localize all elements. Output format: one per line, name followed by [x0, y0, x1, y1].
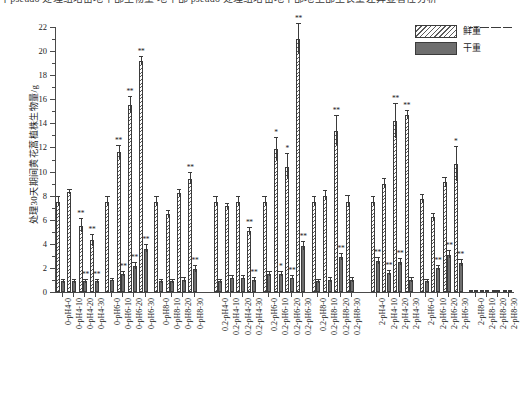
error-bar-cap — [166, 210, 170, 211]
bar-group — [236, 27, 247, 292]
x-tick — [486, 292, 487, 297]
bar-fresh-weight — [247, 231, 251, 292]
x-tick — [122, 292, 123, 297]
x-tick — [351, 292, 352, 297]
error-bar — [395, 104, 396, 138]
bar-group — [177, 27, 188, 292]
significance-marker: ** — [191, 257, 198, 264]
significance-marker: ** — [246, 219, 253, 226]
bar-fresh-weight — [296, 39, 300, 292]
bar-fresh-weight — [117, 152, 121, 292]
x-tick-label: 2-pH8-20 — [500, 298, 508, 329]
x-tick — [62, 292, 63, 297]
x-tick-label: 0-pH4-20 — [87, 298, 95, 329]
error-bar-cap — [387, 270, 391, 271]
error-bar — [461, 260, 462, 266]
error-bar-cap — [316, 279, 320, 280]
x-tick — [340, 292, 341, 297]
error-bar — [298, 24, 299, 54]
bar-fresh-weight — [79, 226, 83, 292]
error-bar-cap — [193, 265, 197, 266]
x-tick-label: 2-pH8-30 — [511, 298, 519, 329]
error-bar — [243, 276, 244, 280]
bar-dry-weight — [110, 280, 114, 292]
bar-fresh-weight — [334, 131, 338, 292]
bar-fresh-weight — [225, 206, 229, 292]
x-tick-label: 2-pH4-10 — [391, 298, 399, 329]
bar-dry-weight — [316, 281, 320, 292]
error-bar-cap — [267, 271, 271, 272]
error-bar-cap — [398, 258, 402, 259]
bar-group — [469, 27, 480, 292]
error-bar-cap — [436, 265, 440, 266]
error-bar-cap — [79, 218, 83, 219]
x-tick-label: 2-pH4-0 — [379, 298, 387, 325]
x-tick-label: 2-pH6-20 — [451, 298, 459, 329]
x-tick-label: 0-pH6-10 — [125, 298, 133, 329]
x-tick-label: 0-pH6-0 — [114, 298, 122, 325]
bar-group — [345, 27, 356, 292]
bar-group: **** — [188, 27, 199, 292]
bar-group: ** — [442, 27, 453, 292]
bar-group — [154, 27, 165, 292]
bar-dry-weight — [193, 269, 197, 292]
significance-marker: ** — [446, 242, 453, 249]
error-bar — [254, 278, 255, 281]
bar-dry-weight — [459, 263, 463, 292]
x-tick — [111, 292, 112, 297]
error-bar — [123, 272, 124, 277]
error-bar — [449, 251, 450, 258]
error-bar-cap — [420, 194, 424, 195]
bar-fresh-weight — [154, 202, 158, 292]
bar-fresh-weight — [236, 202, 240, 292]
bar-dry-weight — [95, 281, 99, 292]
x-tick-label: 0.2-pH6-30 — [305, 298, 313, 335]
error-bar — [135, 263, 136, 269]
x-tick — [448, 292, 449, 297]
y-tick-label: 22 — [39, 23, 48, 32]
bar-dry-weight — [436, 268, 440, 292]
bar-fresh-weight — [274, 149, 278, 292]
x-tick-label: 0-pH8-20 — [185, 298, 193, 329]
error-bar — [130, 97, 131, 113]
x-tick-label: 0-pH4-10 — [76, 298, 84, 329]
y-tick-label: 2 — [43, 264, 47, 273]
bar-dry-weight — [170, 281, 174, 292]
bar-dry-weight — [267, 274, 271, 292]
x-tick-label: 0.2-pH8-0 — [320, 298, 328, 331]
x-tick — [253, 292, 254, 297]
bar-fresh-weight — [382, 184, 386, 292]
error-bar — [92, 235, 93, 246]
error-bar — [384, 179, 385, 189]
x-tick — [230, 292, 231, 297]
significance-marker: ** — [126, 88, 133, 95]
error-bar — [265, 197, 266, 205]
bar-group — [262, 27, 273, 292]
error-bar-cap — [323, 190, 327, 191]
bar-group: ** — [405, 27, 416, 292]
error-bar — [112, 279, 113, 282]
error-bar — [168, 211, 169, 217]
x-axis-labels: 0-pH4-00-pH4-100-pH4-200-pH4-300-pH6-00-… — [56, 298, 516, 390]
error-bar — [292, 276, 293, 280]
bar-dry-weight — [241, 278, 245, 292]
bar-dry-weight — [61, 281, 65, 292]
error-bar — [195, 266, 196, 271]
error-bar-cap — [339, 253, 343, 254]
error-bar — [107, 197, 108, 205]
error-bar — [276, 138, 277, 160]
error-bar-cap — [241, 275, 245, 276]
error-bar — [456, 147, 457, 181]
error-bar — [303, 242, 304, 250]
x-tick-label: 0-pH4-0 — [65, 298, 73, 325]
x-tick-label: 0-pH6-30 — [148, 298, 156, 329]
significance-marker: ** — [251, 269, 258, 276]
error-bar — [238, 197, 239, 205]
error-bar-cap — [393, 103, 397, 104]
error-bar — [161, 280, 162, 283]
significance-marker: ** — [300, 233, 307, 240]
x-axis-ticks — [56, 292, 516, 297]
error-bar — [58, 197, 59, 205]
bar-group: **** — [79, 27, 90, 292]
error-bar — [373, 197, 374, 205]
